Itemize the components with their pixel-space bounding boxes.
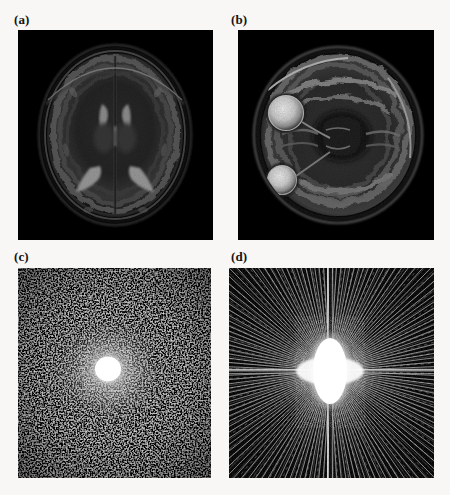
panel-b-label: (b) [231,13,247,26]
panel-a-label: (a) [14,13,29,26]
figure-panel-grid: (a) [0,0,450,495]
panel-c-kspace-spectrum [18,268,211,478]
panel-d-label: (d) [231,250,247,263]
panel-b-mri-image [238,30,434,240]
panel-a-mri-image [18,30,213,240]
panel-c-label: (c) [14,250,29,263]
panel-d-kspace-spectrum [229,268,434,478]
